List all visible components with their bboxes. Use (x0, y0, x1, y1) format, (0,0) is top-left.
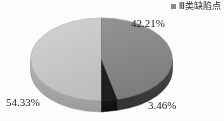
pie-data-label-a: 42.21% (131, 17, 165, 29)
pie-data-label-c: 3.46% (148, 99, 176, 111)
pie-data-label-b: 54.33% (6, 96, 40, 108)
chart-page: Ⅲ类缺陷点 (0, 0, 224, 121)
